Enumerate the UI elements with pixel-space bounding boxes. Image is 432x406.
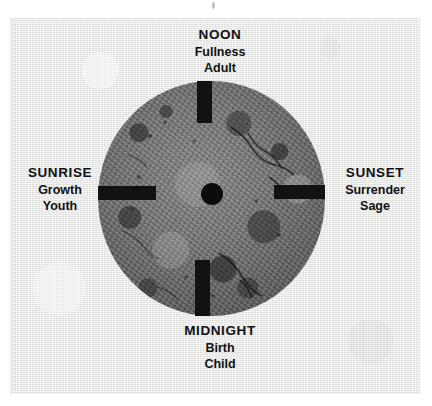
label-midnight-line3: Child (155, 356, 285, 372)
label-sunset-line3: Sage (325, 198, 425, 214)
spoke-south (195, 260, 210, 316)
label-sunset: SUNSET Surrender Sage (325, 164, 425, 214)
label-sunrise-line2: Growth (14, 182, 106, 198)
label-midnight-line2: Birth (155, 340, 285, 356)
diagram-page: NOON Fullness Adult SUNSET Surrender Sag… (0, 0, 432, 406)
wheel-center-dot (201, 183, 223, 205)
label-sunrise-line3: Youth (14, 198, 106, 214)
medicine-wheel-graphic (98, 81, 325, 316)
label-noon-title: NOON (160, 26, 280, 44)
label-noon-line3: Adult (160, 60, 280, 76)
spoke-north (197, 81, 212, 123)
label-noon: NOON Fullness Adult (160, 26, 280, 76)
label-midnight-title: MIDNIGHT (155, 322, 285, 340)
label-sunrise-title: SUNRISE (14, 164, 106, 182)
label-midnight: MIDNIGHT Birth Child (155, 322, 285, 372)
page-speck-artifact (212, 2, 215, 9)
label-noon-line2: Fullness (160, 44, 280, 60)
label-sunrise: SUNRISE Growth Youth (14, 164, 106, 214)
spoke-east (274, 185, 325, 199)
label-sunset-line2: Surrender (325, 182, 425, 198)
spoke-west (98, 186, 156, 200)
label-sunset-title: SUNSET (325, 164, 425, 182)
